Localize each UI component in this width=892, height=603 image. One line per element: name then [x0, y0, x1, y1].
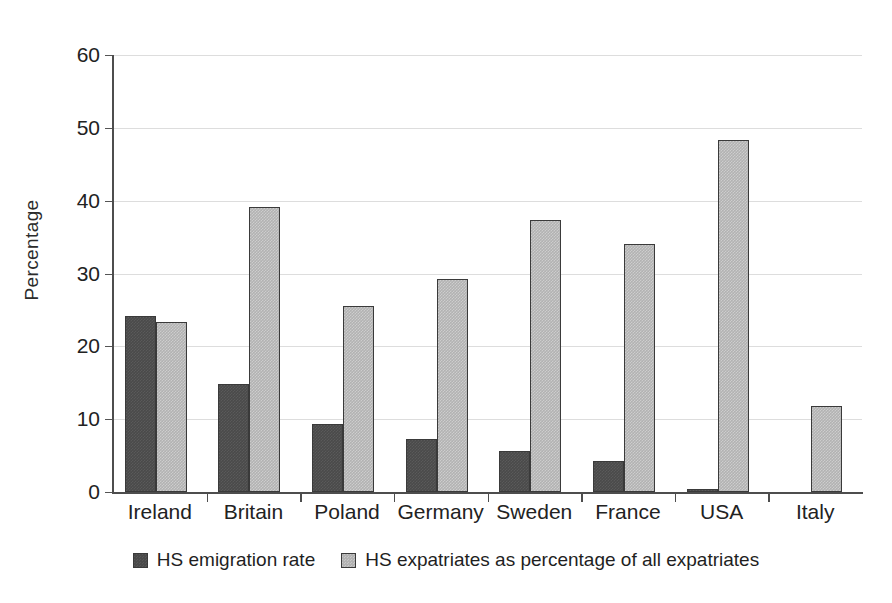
- bar-ireland-series-2[interactable]: [156, 322, 187, 492]
- y-axis-title: Percentage: [14, 0, 50, 500]
- bar-group: [780, 55, 842, 492]
- bar-france-series-1[interactable]: [593, 461, 624, 492]
- bar-sweden-series-2[interactable]: [530, 220, 561, 492]
- bar-group: [312, 55, 374, 492]
- y-tick-label: 20: [77, 334, 100, 358]
- bar-britain-series-1[interactable]: [218, 384, 249, 492]
- y-axis-title-text: Percentage: [21, 199, 43, 300]
- chart-legend: HS emigration rateHS expatriates as perc…: [0, 549, 892, 571]
- bar-poland-series-1[interactable]: [312, 424, 343, 492]
- x-axis-label-poland: Poland: [300, 500, 394, 524]
- bar-germany-series-1[interactable]: [406, 439, 437, 492]
- y-tick-label: 60: [77, 43, 100, 67]
- x-axis-labels-group: IrelandBritainPolandGermanySwedenFranceU…: [113, 500, 862, 530]
- y-tick-label: 50: [77, 116, 100, 140]
- y-tick-label: 30: [77, 262, 100, 286]
- x-axis-label-sweden: Sweden: [488, 500, 582, 524]
- y-tick-label: 40: [77, 189, 100, 213]
- bar-sweden-series-1[interactable]: [499, 451, 530, 492]
- x-axis-label-italy: Italy: [768, 500, 862, 524]
- bar-group: [406, 55, 468, 492]
- x-axis-label-germany: Germany: [394, 500, 488, 524]
- x-axis-label-france: France: [581, 500, 675, 524]
- bar-usa-series-2[interactable]: [718, 140, 749, 492]
- legend-label: HS expatriates as percentage of all expa…: [365, 549, 759, 571]
- dark-square-swatch: [133, 553, 148, 568]
- bar-italy-series-2[interactable]: [811, 406, 842, 492]
- bars-group: [113, 55, 862, 492]
- bar-group: [125, 55, 187, 492]
- bar-usa-series-1[interactable]: [687, 489, 718, 492]
- bar-germany-series-2[interactable]: [437, 279, 468, 492]
- bar-group: [218, 55, 280, 492]
- x-axis-label-usa: USA: [675, 500, 769, 524]
- x-axis-label-ireland: Ireland: [113, 500, 207, 524]
- y-tick-label: 0: [88, 480, 100, 504]
- bar-group: [593, 55, 655, 492]
- legend-item-1[interactable]: HS emigration rate: [133, 549, 315, 571]
- x-axis-label-britain: Britain: [207, 500, 301, 524]
- bar-group: [499, 55, 561, 492]
- bar-france-series-2[interactable]: [624, 244, 655, 492]
- bar-chart-figure: Percentage 0102030405060 IrelandBritainP…: [0, 0, 892, 603]
- bar-poland-series-2[interactable]: [343, 306, 374, 492]
- plot-area: 0102030405060: [113, 55, 862, 492]
- y-tick-label: 10: [77, 407, 100, 431]
- legend-label: HS emigration rate: [157, 549, 315, 571]
- legend-item-2[interactable]: HS expatriates as percentage of all expa…: [341, 549, 759, 571]
- bar-britain-series-2[interactable]: [249, 207, 280, 492]
- bar-ireland-series-1[interactable]: [125, 316, 156, 492]
- bar-group: [687, 55, 749, 492]
- light-square-swatch: [341, 553, 356, 568]
